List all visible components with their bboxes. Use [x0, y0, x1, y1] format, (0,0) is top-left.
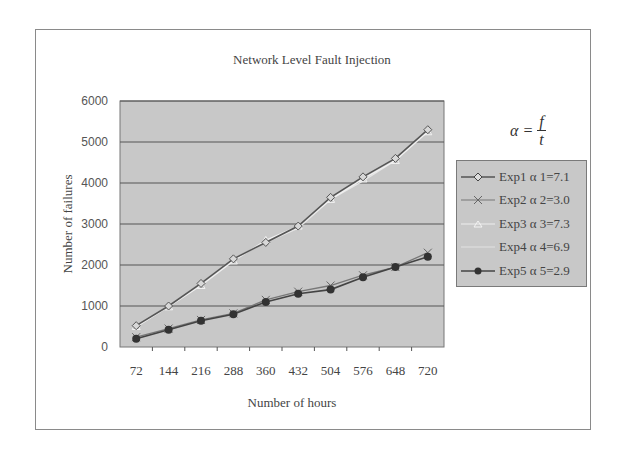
- legend-item-exp1: Exp1 α 1=7.1: [457, 165, 586, 189]
- x-tick-label: 288: [224, 363, 244, 378]
- circle-marker-icon: [424, 253, 432, 261]
- circle-marker-icon: [197, 317, 205, 325]
- x-tick-label: 72: [130, 363, 143, 378]
- formula-denominator: t: [539, 131, 543, 148]
- legend-item-exp4: Exp4 α 4=6.9: [457, 236, 586, 260]
- legend-label: Exp2 α 2=3.0: [499, 192, 570, 208]
- legend-label: Exp5 α 5=2.9: [499, 263, 570, 279]
- circle-marker-icon: [165, 326, 173, 334]
- y-tick-label: 5000: [81, 135, 108, 149]
- x-tick-label: 216: [191, 363, 211, 378]
- legend-label: Exp4 α 4=6.9: [499, 239, 570, 255]
- x-tick-label: 360: [256, 363, 276, 378]
- legend-label: Exp1 α 1=7.1: [499, 169, 570, 185]
- x-tick-label: 720: [418, 363, 438, 378]
- y-tick-label: 4000: [81, 176, 108, 190]
- circle-marker-icon: [229, 310, 237, 318]
- circle-marker-icon: [132, 335, 140, 343]
- y-tick-label: 3000: [81, 217, 108, 231]
- formula-lhs: α =: [510, 122, 533, 140]
- circle-marker-icon: [327, 286, 335, 294]
- x-tick-label: 432: [288, 363, 308, 378]
- x-marker-icon: [461, 194, 495, 206]
- circle-marker-icon: [359, 273, 367, 281]
- legend-label: Exp3 α 3=7.3: [499, 216, 570, 232]
- formula-fraction: f t: [537, 113, 545, 148]
- x-tick-label: 576: [353, 363, 373, 378]
- line-marker-icon: [461, 241, 495, 253]
- y-tick-label: 1000: [81, 299, 108, 313]
- y-axis-label: Number of failures: [60, 175, 75, 274]
- formula-numerator: f: [537, 113, 545, 131]
- legend-item-exp3: Exp3 α 3=7.3: [457, 212, 586, 236]
- y-tick-label: 6000: [81, 94, 108, 108]
- y-tick-label: 0: [101, 340, 108, 354]
- circle-marker-icon: [262, 298, 270, 306]
- diamond-marker-icon: [461, 171, 495, 183]
- x-tick-label: 144: [159, 363, 179, 378]
- legend-item-exp5: Exp5 α 5=2.9: [457, 259, 586, 283]
- x-axis-label: Number of hours: [248, 395, 337, 410]
- x-tick-label: 648: [386, 363, 406, 378]
- alpha-formula: α = f t: [510, 113, 546, 148]
- triangle-marker-icon: [461, 218, 495, 230]
- circle-marker-icon: [391, 263, 399, 271]
- x-tick-label: 504: [321, 363, 341, 378]
- circle-marker-icon: [461, 265, 495, 277]
- legend-item-exp2: Exp2 α 2=3.0: [457, 189, 586, 213]
- chart-legend: Exp1 α 1=7.1 Exp2 α 2=3.0 Exp3 α 3=7.3 E…: [456, 160, 587, 287]
- circle-marker-icon: [294, 290, 302, 298]
- y-tick-label: 2000: [81, 258, 108, 272]
